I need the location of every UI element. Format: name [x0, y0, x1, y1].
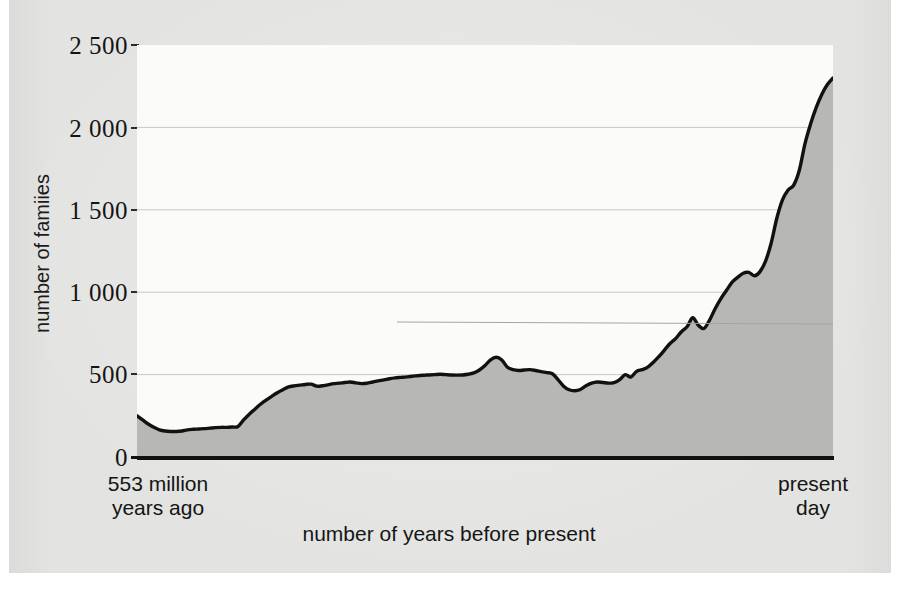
y-tick-label-2000: 2 000	[69, 116, 128, 141]
x-axis-baseline	[137, 456, 834, 460]
x-axis-end-label-line2: day	[753, 496, 873, 520]
plot-area	[137, 45, 833, 457]
x-axis-start-label-line1: 553 million	[78, 472, 238, 496]
x-axis-start-label-line2: years ago	[78, 496, 238, 520]
y-tick-label-0: 0	[115, 445, 128, 470]
x-axis-end-label-line1: present	[753, 472, 873, 496]
figure-root: 2 500 2 000 1 500 1 000 500 0 number of …	[0, 0, 898, 594]
y-axis-title: number of famiies	[31, 159, 54, 349]
area-chart-svg	[137, 45, 833, 457]
y-tick-label-1000: 1 000	[69, 280, 128, 305]
x-axis-start-label: 553 million years ago	[78, 472, 238, 519]
x-axis-end-label: present day	[753, 472, 873, 519]
x-axis-title: number of years before present	[0, 522, 898, 546]
y-tick-label-1500: 1 500	[69, 198, 128, 223]
y-tick-label-500: 500	[89, 362, 128, 387]
area-fill	[137, 78, 833, 457]
y-tick-label-2500: 2 500	[69, 33, 128, 58]
